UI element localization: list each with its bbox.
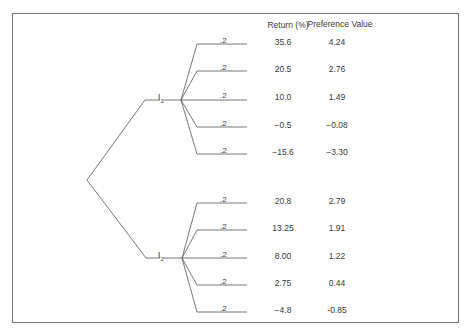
return-value: 20.8	[275, 196, 292, 206]
decision-tree-lines	[0, 0, 473, 335]
i2-outcome-4-line	[182, 258, 247, 285]
probability-label: .2	[220, 277, 227, 287]
return-value: 20.5	[275, 64, 292, 74]
preference-column-header: Preference Value	[307, 19, 372, 29]
preference-value: 4.24	[329, 37, 346, 47]
node-label-i2: I2	[158, 250, 164, 264]
preference-value: 1.49	[329, 92, 346, 102]
return-value: 8.00	[275, 251, 292, 261]
probability-label: .2	[220, 36, 227, 46]
preference-value: 2.79	[329, 196, 346, 206]
probability-label: .2	[220, 91, 227, 101]
i1-outcome-1-line	[181, 44, 247, 100]
return-value: −4.8	[275, 305, 292, 315]
probability-label: .2	[220, 119, 227, 129]
i1-outcome-2-line	[181, 71, 247, 100]
i2-outcome-2-line	[182, 230, 247, 258]
preference-value: 1.22	[329, 251, 346, 261]
return-value: −0.5	[275, 120, 292, 130]
node-label-i1: I1	[158, 92, 164, 106]
preference-value: 2.76	[329, 64, 346, 74]
preference-value: -0.85	[327, 305, 346, 315]
probability-label: .2	[220, 250, 227, 260]
root-to-i2-branch	[87, 180, 160, 258]
return-value: 10.0	[275, 92, 292, 102]
preference-value: 0.44	[329, 278, 346, 288]
i1-outcome-4-line	[181, 100, 247, 127]
probability-label: .2	[220, 222, 227, 232]
return-value: 2.75	[275, 278, 292, 288]
return-value: −15.6	[272, 147, 294, 157]
probability-label: .2	[220, 304, 227, 314]
preference-value: −0.08	[326, 120, 348, 130]
return-value: 35.6	[275, 37, 292, 47]
probability-label: .2	[220, 195, 227, 205]
preference-value: −3.30	[326, 147, 348, 157]
i2-outcome-1-line	[182, 203, 247, 258]
return-column-header: Return (%)	[267, 20, 308, 30]
probability-label: .2	[220, 146, 227, 156]
return-value: 13.25	[272, 223, 293, 233]
preference-value: 1.91	[329, 223, 346, 233]
probability-label: .2	[220, 63, 227, 73]
root-to-i1-branch	[87, 100, 160, 180]
